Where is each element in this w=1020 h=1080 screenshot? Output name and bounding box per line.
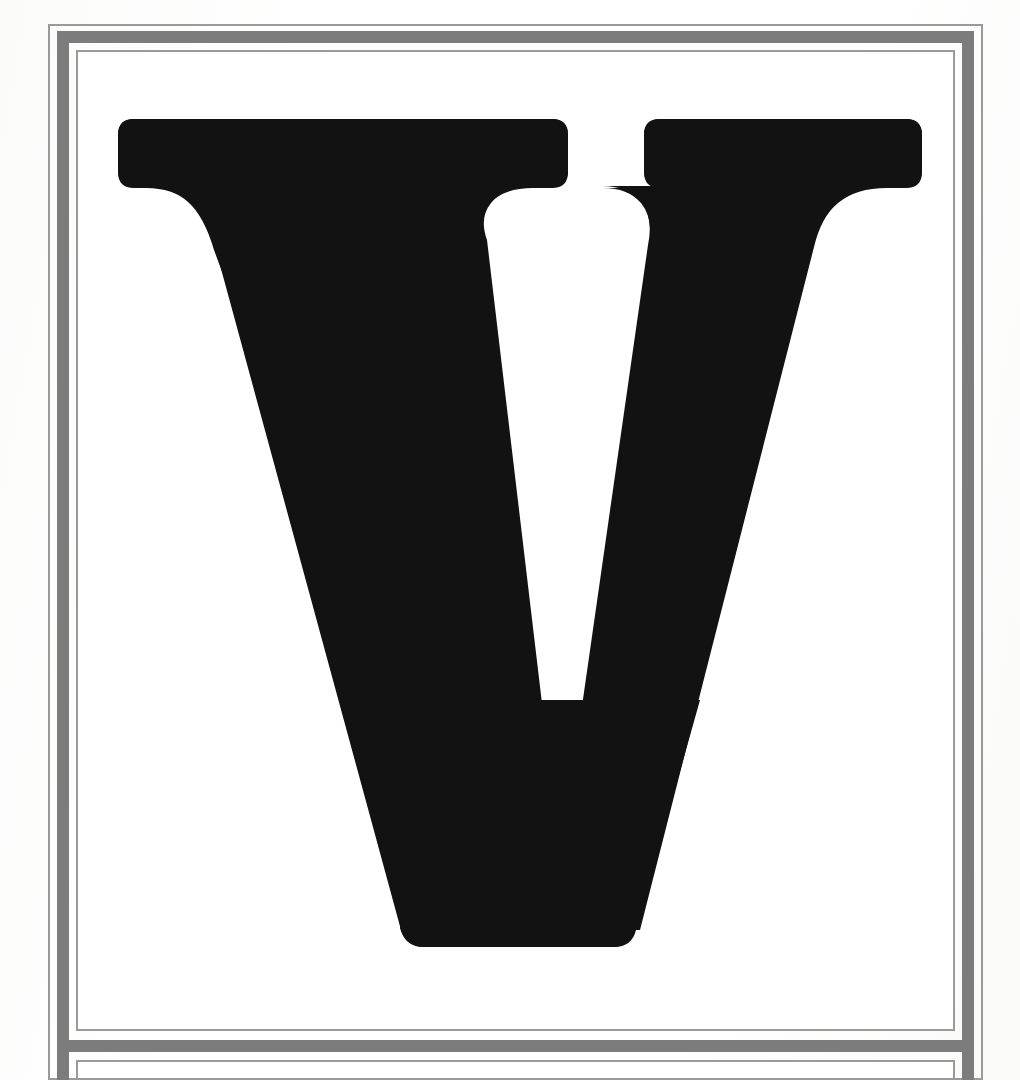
frame-inner-rule-right [953, 50, 955, 1031]
panel-divider [57, 1040, 974, 1052]
frame-outer-rule-right [981, 24, 983, 1080]
frame-band-right [962, 31, 974, 1080]
frame-lower-rule-left [76, 1060, 78, 1080]
scanned-page: V [0, 0, 1020, 1080]
frame-inner-rule-top [76, 50, 955, 52]
frame-inner-rule-bottom [76, 1029, 955, 1031]
frame-lower-rule-right [953, 1060, 955, 1080]
frame-band-top [57, 31, 974, 43]
frame-band-left [57, 31, 69, 1080]
frame-outer-rule-top [48, 24, 983, 26]
frame-outer-rule-left [48, 24, 50, 1080]
frame-inner-rule-left [76, 50, 78, 1031]
frame-lower-rule-top [76, 1060, 955, 1062]
illustration-panel [78, 52, 953, 1029]
